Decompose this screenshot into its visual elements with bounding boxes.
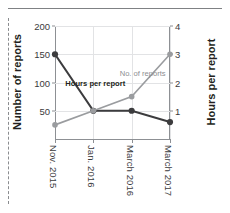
series-line xyxy=(55,54,170,125)
x-axis-tick-label: March 2016 xyxy=(125,145,136,196)
right-axis-tick-mark xyxy=(170,110,173,111)
annotation-no-of-reports: No. of reports xyxy=(120,69,166,78)
series-line xyxy=(55,54,170,122)
x-axis-tick-mark xyxy=(55,139,56,143)
series-data-point xyxy=(52,122,58,128)
left-axis-title-text: Number of reports xyxy=(11,34,23,130)
series-data-point xyxy=(129,94,135,100)
x-axis-tick-mark xyxy=(132,139,133,143)
left-dashed-border xyxy=(8,18,9,204)
x-axis-tick-mark xyxy=(93,139,94,143)
x-axis-tick-label: Nov. 2015 xyxy=(48,145,59,189)
x-axis-tick-mark xyxy=(170,139,171,143)
series-data-point xyxy=(52,51,58,57)
right-axis-title-text: Hours per report xyxy=(205,39,217,126)
x-axis-line xyxy=(55,139,170,140)
left-axis-title: Number of reports xyxy=(10,30,24,134)
x-axis-tick-label: March 2017 xyxy=(163,145,174,196)
right-axis-tick-mark xyxy=(170,82,173,83)
right-axis-title: Hours per report xyxy=(204,26,218,138)
series-data-point xyxy=(167,51,173,57)
x-axis-tick-label: Jan. 2016 xyxy=(86,145,97,188)
series-data-point xyxy=(167,119,173,125)
annotation-hours-per-report: Hours per report xyxy=(65,79,125,88)
series-data-point xyxy=(91,108,97,114)
top-horizontal-rule xyxy=(8,8,222,9)
right-axis-tick-mark xyxy=(170,26,173,27)
series-data-point xyxy=(129,108,135,114)
chart-plot-area: 50100150200 1234 Nov. 2015Jan. 2016March… xyxy=(55,26,170,139)
